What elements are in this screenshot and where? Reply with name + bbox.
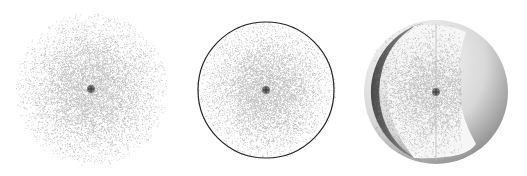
electron-cloud-image bbox=[3, 0, 179, 176]
sphere-cutaway-image bbox=[348, 0, 524, 176]
panel-sphere-cutaway bbox=[348, 0, 524, 176]
panel-diffuse-cloud bbox=[3, 0, 179, 176]
panel-cloud-boundary bbox=[178, 0, 354, 176]
electron-cloud-boundary-image bbox=[178, 0, 354, 176]
